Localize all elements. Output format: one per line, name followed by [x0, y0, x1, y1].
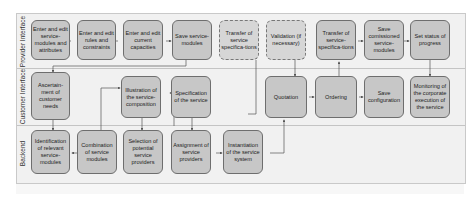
node-enter-edit-modules[interactable]: Enter and edit service-modules and attri…	[31, 20, 70, 60]
node-validation[interactable]: Validation (if necessary)	[266, 20, 306, 60]
node-identification[interactable]: Identification of relevant service-modul…	[31, 130, 70, 174]
node-assignment[interactable]: Assignment of service providers	[171, 130, 211, 174]
node-quotation[interactable]: Quotation	[265, 76, 307, 118]
lane-label-provider: Provider Interface	[17, 14, 29, 68]
node-save-comissioned[interactable]: Save comissioned service-modules	[364, 20, 404, 60]
node-ascertainment[interactable]: Ascertain-ment of customer needs	[31, 72, 70, 120]
node-transfer-specs-2[interactable]: Transfer of service-specifica-tions	[316, 20, 356, 60]
node-illustration[interactable]: Illustration of the service-composition	[121, 76, 161, 118]
node-ordering[interactable]: Ordering	[315, 76, 357, 118]
node-save-service-modules[interactable]: Save service-modules	[172, 20, 212, 60]
node-specification[interactable]: Specification of the service	[171, 76, 211, 118]
node-save-configuration[interactable]: Save configuration	[364, 76, 404, 118]
node-enter-edit-capacities[interactable]: Enter and edit current capacities	[123, 20, 163, 60]
node-enter-edit-rules[interactable]: Enter and edit rules and constraints	[77, 20, 116, 60]
node-monitoring[interactable]: Monitoring of the corporate execution of…	[410, 76, 450, 118]
node-combination[interactable]: Combination of service modules	[77, 130, 117, 174]
node-selection[interactable]: Selection of potential service providers	[123, 130, 163, 174]
lane-label-customer: Customer Interface	[17, 68, 29, 125]
faded-caption-area	[16, 184, 464, 194]
lane-label-backend: Backend	[17, 125, 29, 182]
node-set-status[interactable]: Set status of progress	[410, 20, 450, 60]
node-transfer-specs-1[interactable]: Transfer of service specifica-tions	[219, 20, 259, 60]
swimlane-diagram: Provider Interface Customer Interface Ba…	[16, 13, 466, 184]
node-instantiation[interactable]: Instantiation of the service system	[223, 130, 263, 174]
